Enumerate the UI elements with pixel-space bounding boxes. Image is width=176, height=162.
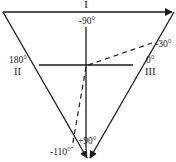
einthoven-triangle-diagram: I -90° -30° 180° II 0° III +90° -110° [0, 0, 176, 162]
angle-minus-110-label: -110° [50, 147, 71, 157]
angle-minus-90-label: -90° [79, 16, 96, 26]
minus-30-axis-dashed [88, 43, 152, 65]
angle-plus-90-label: +90° [78, 136, 97, 146]
angle-0-label: 0° [146, 55, 155, 65]
lead-ii-axis [3, 12, 87, 158]
angle-minus-30-label: -30° [155, 39, 172, 49]
lead-i-label: I [84, 0, 88, 10]
lead-iii-axis [90, 12, 174, 158]
lead-iii-label: III [145, 66, 156, 77]
lead-ii-label: II [14, 66, 21, 77]
angle-180-label: 180° [9, 55, 27, 65]
